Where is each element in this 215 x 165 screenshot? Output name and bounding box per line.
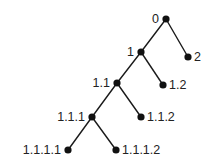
node-dot-icon <box>64 146 71 153</box>
tree-edge <box>166 19 188 57</box>
node-dot-icon <box>137 48 144 55</box>
node-label: 0 <box>152 12 159 26</box>
tree-node: 1.1.1.1 <box>23 143 72 157</box>
node-dot-icon <box>113 79 120 86</box>
node-dot-icon <box>112 146 119 153</box>
node-label: 1.2 <box>169 78 186 92</box>
node-label: 1.1.1.2 <box>122 143 160 157</box>
node-dot-icon <box>159 81 166 88</box>
node-label: 1.1.1.1 <box>23 143 61 157</box>
tree-edge <box>117 83 141 117</box>
tree-edge <box>92 117 116 150</box>
tree-diagram: 0121.11.21.1.11.1.21.1.1.11.1.1.2 <box>0 0 215 165</box>
tree-node: 1.1.2 <box>137 110 174 124</box>
tree-node: 1.1.1 <box>57 110 95 124</box>
tree-node: 1 <box>127 45 145 59</box>
node-label: 1 <box>127 45 134 59</box>
node-label: 1.1.1 <box>57 110 85 124</box>
node-dot-icon <box>162 15 169 22</box>
tree-node: 0 <box>152 12 170 26</box>
tree-node: 1.1 <box>93 76 121 90</box>
node-label: 1.1 <box>93 76 110 90</box>
node-label: 1.1.2 <box>147 110 175 124</box>
tree-node: 1.1.1.2 <box>112 143 160 157</box>
node-dot-icon <box>88 113 95 120</box>
node-dot-icon <box>137 113 144 120</box>
node-dot-icon <box>184 53 191 60</box>
tree-node: 1.2 <box>159 78 186 92</box>
tree-edge <box>141 52 163 85</box>
node-label: 2 <box>194 50 201 64</box>
tree-node: 2 <box>184 50 201 64</box>
